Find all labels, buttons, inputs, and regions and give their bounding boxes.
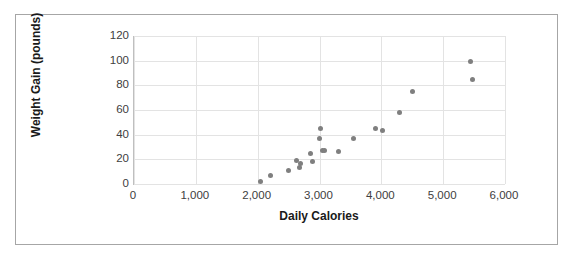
plot-area xyxy=(133,36,505,185)
y-tick-label: 40 xyxy=(89,129,129,141)
y-tick-label: 0 xyxy=(89,178,129,190)
y-axis-tick-labels: 020406080100120 xyxy=(85,36,129,185)
x-tick-label: 5,000 xyxy=(412,190,472,202)
x-tick-label: 3,000 xyxy=(289,190,349,202)
gridline-horizontal xyxy=(134,184,505,185)
x-tick-label: 2,000 xyxy=(227,190,287,202)
data-point xyxy=(268,173,273,178)
gridline-vertical xyxy=(381,36,382,184)
gridline-vertical xyxy=(320,36,321,184)
data-point xyxy=(308,151,313,156)
data-point xyxy=(351,136,356,141)
data-point xyxy=(410,89,415,94)
y-tick-label: 60 xyxy=(89,104,129,116)
gridline-vertical xyxy=(258,36,259,184)
data-point xyxy=(297,165,302,170)
data-point xyxy=(310,159,315,164)
gridline-vertical xyxy=(134,36,135,184)
data-point xyxy=(322,148,327,153)
data-point xyxy=(470,77,475,82)
data-point xyxy=(373,126,378,131)
y-tick-label: 80 xyxy=(89,80,129,92)
data-point xyxy=(317,136,322,141)
x-axis-title: Daily Calories xyxy=(133,209,505,223)
x-tick-label: 0 xyxy=(103,190,163,202)
y-tick-label: 20 xyxy=(89,154,129,166)
gridline-vertical xyxy=(443,36,444,184)
y-tick-label: 100 xyxy=(89,55,129,67)
data-point xyxy=(286,168,291,173)
x-axis-tick-labels: 01,0002,0003,0004,0005,0006,000 xyxy=(133,190,505,206)
gridline-vertical xyxy=(505,36,506,184)
scatter-chart: Weight Gain (pounds) 020406080100120 01,… xyxy=(0,0,576,263)
data-point xyxy=(380,128,385,133)
data-point xyxy=(468,59,473,64)
gridline-vertical xyxy=(196,36,197,184)
y-axis-title: Weight Gain (pounds) xyxy=(29,0,43,155)
x-tick-label: 1,000 xyxy=(165,190,225,202)
y-tick-label: 120 xyxy=(89,30,129,42)
x-tick-label: 4,000 xyxy=(350,190,410,202)
data-point xyxy=(397,110,402,115)
x-tick-label: 6,000 xyxy=(474,190,534,202)
data-point xyxy=(318,126,323,131)
data-point xyxy=(336,149,341,154)
